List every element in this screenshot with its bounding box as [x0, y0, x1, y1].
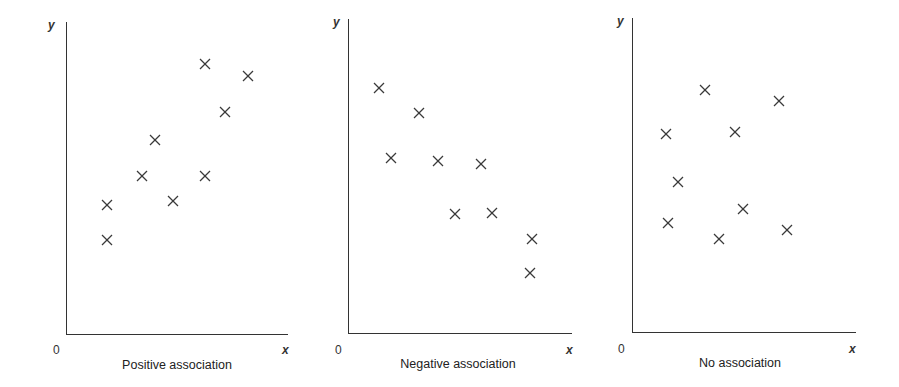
- y-axis-label: y: [333, 15, 340, 29]
- data-point-x-marker-icon: [662, 217, 674, 229]
- data-point-x-marker-icon: [672, 176, 684, 188]
- data-point-x-marker-icon: [475, 158, 487, 170]
- data-point-x-marker-icon: [413, 107, 425, 119]
- panel-title: No association: [699, 356, 781, 370]
- plot-area: [632, 18, 856, 333]
- panel-title: Positive association: [122, 358, 232, 372]
- x-axis-label: x: [849, 342, 856, 356]
- data-point-x-marker-icon: [101, 199, 113, 211]
- data-point-x-marker-icon: [101, 234, 113, 246]
- data-point-x-marker-icon: [219, 106, 231, 118]
- x-axis-label: x: [566, 343, 573, 357]
- data-point-x-marker-icon: [737, 203, 749, 215]
- data-point-x-marker-icon: [136, 170, 148, 182]
- data-point-x-marker-icon: [373, 82, 385, 94]
- data-point-x-marker-icon: [486, 207, 498, 219]
- data-point-x-marker-icon: [524, 267, 536, 279]
- data-point-x-marker-icon: [699, 84, 711, 96]
- data-point-x-marker-icon: [781, 224, 793, 236]
- panel-title: Negative association: [400, 357, 515, 371]
- origin-label: 0: [335, 343, 342, 357]
- origin-label: 0: [53, 343, 60, 357]
- data-point-x-marker-icon: [773, 95, 785, 107]
- data-point-x-marker-icon: [660, 128, 672, 140]
- data-point-x-marker-icon: [167, 195, 179, 207]
- data-point-x-marker-icon: [199, 58, 211, 70]
- data-point-x-marker-icon: [385, 152, 397, 164]
- data-point-x-marker-icon: [526, 233, 538, 245]
- plot-area: [66, 22, 288, 335]
- y-axis-label: y: [617, 14, 624, 28]
- origin-label: 0: [618, 342, 625, 356]
- data-point-x-marker-icon: [149, 134, 161, 146]
- data-point-x-marker-icon: [242, 70, 254, 82]
- plot-area: [348, 19, 572, 334]
- data-point-x-marker-icon: [449, 208, 461, 220]
- data-point-x-marker-icon: [713, 233, 725, 245]
- data-point-x-marker-icon: [432, 155, 444, 167]
- y-axis-label: y: [48, 18, 55, 32]
- data-point-x-marker-icon: [199, 170, 211, 182]
- x-axis-label: x: [282, 343, 289, 357]
- data-point-x-marker-icon: [729, 126, 741, 138]
